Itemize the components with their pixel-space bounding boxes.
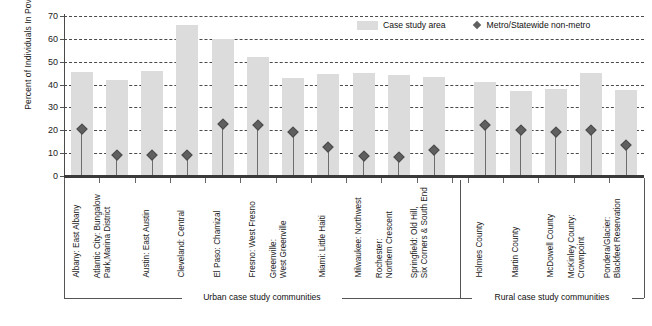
- x-axis-label: McKinley County:Crownpoint: [567, 214, 586, 278]
- poverty-bar-chart: Percent of Individuals In Poverty, 2000 …: [0, 0, 652, 326]
- x-axis-label-line: Park,Marina District: [102, 194, 112, 278]
- x-tick-mark: [503, 178, 504, 183]
- bracket-end-tick: [460, 290, 461, 298]
- x-axis-label-line: Martin County: [511, 227, 521, 278]
- x-tick-mark: [276, 178, 277, 183]
- group-divider: [460, 180, 461, 298]
- x-axis-label: Milwaukee: Northwest: [354, 198, 364, 278]
- bracket-line-right: [632, 298, 644, 299]
- x-axis-label: Albany: East Albany: [72, 205, 82, 278]
- x-axis-label: Holmes County: [476, 222, 486, 278]
- x-axis-label: Austin: East Austin: [143, 210, 153, 278]
- x-axis-label: Greenville:West Greenville: [269, 220, 288, 278]
- x-axis-label-line: Milwaukee: Northwest: [354, 198, 364, 278]
- bracket-line-left: [64, 298, 182, 299]
- y-tick-label-20: 20: [38, 125, 58, 135]
- group-divider: [644, 180, 645, 298]
- x-tick-mark: [574, 178, 575, 183]
- legend-label-metro: Metro/Statewide non-metro: [487, 20, 591, 30]
- x-axis-label: Pondera/Glacier:Blackfeet Reservation: [602, 198, 621, 278]
- group-label: Urban case study communities: [182, 292, 342, 302]
- x-tick-mark: [99, 178, 100, 183]
- bracket-line-right: [342, 298, 460, 299]
- x-axis-label-line: West Greenville: [279, 220, 289, 278]
- x-tick-mark: [452, 178, 453, 183]
- x-axis-label-line: Six Corners & South End: [420, 187, 430, 278]
- bracket-line-left: [460, 298, 472, 299]
- gridline-60: [64, 39, 644, 40]
- bracket-end-tick: [64, 290, 65, 298]
- x-axis-label: El Paso: Chamizal: [213, 211, 223, 278]
- x-tick-mark: [311, 178, 312, 183]
- x-axis-label-line: Rochester:: [375, 211, 385, 278]
- x-axis-label-line: Crownpoint: [577, 214, 587, 278]
- legend-swatch-diamond-icon: [472, 21, 480, 29]
- plot-area: [64, 16, 644, 176]
- x-axis-label-line: Cleveland: Central: [178, 211, 188, 278]
- y-axis-label: Percent of Individuals In Poverty, 2000: [23, 0, 34, 115]
- chart-legend: Case study area Metro/Statewide non-metr…: [357, 20, 590, 30]
- x-axis-label: Springfield: Old Hill,Six Corners & Sout…: [410, 187, 429, 278]
- x-tick-mark: [205, 178, 206, 183]
- x-axis-label-line: Holmes County: [476, 222, 486, 278]
- y-tick-label-50: 50: [38, 57, 58, 67]
- group-divider: [64, 180, 65, 298]
- x-tick-mark: [417, 178, 418, 183]
- x-tick-mark: [468, 178, 469, 183]
- x-axis-label: Martin County: [511, 227, 521, 278]
- x-axis-label-line: Miami: Little Haiti: [319, 216, 329, 278]
- x-axis-label: Miami: Little Haiti: [319, 216, 329, 278]
- gridline-50: [64, 62, 644, 63]
- y-tick-label-10: 10: [38, 148, 58, 158]
- x-axis-label: Fresno: West Fresno: [248, 202, 258, 278]
- x-axis-label-line: Greenville:: [269, 220, 279, 278]
- x-axis-label: Rochester:Northern Crescent: [375, 211, 394, 278]
- x-axis-baseline: [64, 175, 644, 178]
- x-tick-mark: [346, 178, 347, 183]
- x-tick-mark: [538, 178, 539, 183]
- group-label: Rural case study communities: [472, 292, 632, 302]
- x-axis-label-line: Springfield: Old Hill,: [410, 187, 420, 278]
- y-tick-label-70: 70: [38, 11, 58, 21]
- legend-label-case-study: Case study area: [383, 20, 446, 30]
- x-axis-label-line: Northern Crescent: [384, 211, 394, 278]
- y-tick-label-40: 40: [38, 80, 58, 90]
- x-axis-label: Atlantic City: BungalowPark,Marina Distr…: [93, 194, 112, 278]
- gridline-70: [64, 16, 644, 17]
- x-axis-label-line: Blackfeet Reservation: [612, 198, 622, 278]
- x-tick-mark: [240, 178, 241, 183]
- y-tick-label-60: 60: [38, 34, 58, 44]
- x-axis-label-line: McDowell County: [546, 214, 556, 278]
- x-axis-label-line: Austin: East Austin: [143, 210, 153, 278]
- bracket-end-tick: [644, 290, 645, 298]
- legend-item-metro: Metro/Statewide non-metro: [474, 20, 591, 30]
- x-axis-label: Cleveland: Central: [178, 211, 188, 278]
- x-axis-label-line: El Paso: Chamizal: [213, 211, 223, 278]
- x-tick-mark: [135, 178, 136, 183]
- x-axis-label-line: Fresno: West Fresno: [248, 202, 258, 278]
- legend-swatch-bar: [357, 21, 378, 30]
- x-tick-mark: [381, 178, 382, 183]
- x-axis-label: McDowell County: [546, 214, 556, 278]
- y-tick-label-0: 0: [38, 171, 58, 181]
- legend-item-case-study: Case study area: [357, 20, 446, 30]
- x-tick-mark: [170, 178, 171, 183]
- y-tick-label-30: 30: [38, 102, 58, 112]
- x-axis-label-line: Atlantic City: Bungalow: [93, 194, 103, 278]
- x-axis-label-line: McKinley County:: [567, 214, 577, 278]
- x-axis-label-line: Albany: East Albany: [72, 205, 82, 278]
- x-axis-label-line: Pondera/Glacier:: [602, 198, 612, 278]
- x-tick-mark: [609, 178, 610, 183]
